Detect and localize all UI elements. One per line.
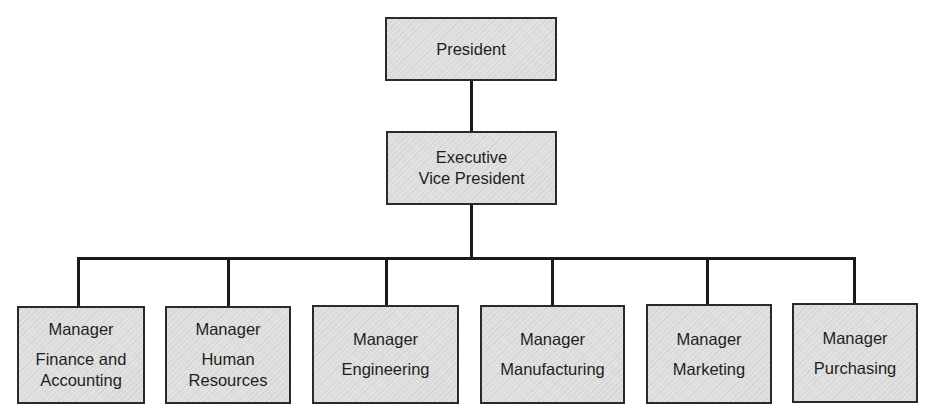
connector-drop-marketing [706, 257, 709, 305]
node-manager-marketing: Manager Marketing [646, 304, 772, 404]
node-finance-line1: Finance and [36, 349, 127, 370]
node-president: President [385, 17, 557, 81]
connector-drop-engineering [385, 257, 388, 306]
node-marketing-role: Manager [676, 329, 741, 350]
node-hr-role: Manager [195, 319, 260, 340]
node-engineering-line1: Engineering [341, 359, 429, 380]
node-manager-finance-accounting: Manager Finance and Accounting [17, 306, 145, 404]
node-hr-line2: Resources [189, 370, 268, 391]
node-manager-engineering: Manager Engineering [312, 305, 459, 404]
connector-president-evp [470, 80, 473, 132]
node-finance-line2: Accounting [40, 370, 122, 391]
node-manager-human-resources: Manager Human Resources [165, 306, 291, 404]
node-finance-role: Manager [48, 319, 113, 340]
node-manufacturing-line1: Manufacturing [500, 359, 605, 380]
connector-manager-bus [77, 257, 856, 260]
connector-drop-manufacturing [551, 257, 554, 306]
node-president-title: President [436, 39, 506, 60]
node-manufacturing-role: Manager [520, 329, 585, 350]
node-executive-vice-president: Executive Vice President [386, 131, 557, 205]
node-manager-purchasing: Manager Purchasing [792, 303, 918, 403]
node-purchasing-line1: Purchasing [814, 358, 897, 379]
node-manager-manufacturing: Manager Manufacturing [480, 305, 625, 404]
connector-drop-finance [77, 257, 80, 307]
node-purchasing-role: Manager [822, 328, 887, 349]
node-marketing-line1: Marketing [673, 359, 745, 380]
connector-drop-purchasing [853, 257, 856, 305]
node-engineering-role: Manager [353, 329, 418, 350]
connector-drop-hr [227, 257, 230, 307]
node-hr-line1: Human [201, 349, 254, 370]
node-evp-line1: Executive [436, 147, 508, 168]
connector-evp-bus [470, 204, 473, 260]
node-evp-line2: Vice President [418, 168, 524, 189]
